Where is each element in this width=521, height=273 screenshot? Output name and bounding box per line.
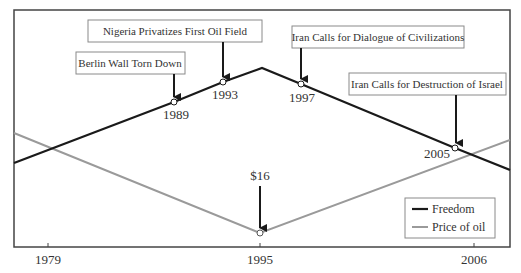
chart-svg: 1979 1995 2006 Nigeria Privatizes First … (0, 0, 521, 273)
x-tick-label-1979: 1979 (35, 252, 61, 267)
price-label: $16 (250, 168, 270, 183)
year-label-1989: 1989 (163, 107, 189, 122)
point-1997 (298, 81, 304, 87)
point-1989 (171, 99, 177, 105)
point-1993 (220, 79, 226, 85)
annotation-text-nigeria: Nigeria Privatizes First Oil Field (103, 25, 248, 37)
x-tick-label-1995: 1995 (247, 252, 273, 267)
annotation-text-iran-dialogue: Iran Calls for Dialogue of Civilizations (292, 31, 465, 43)
year-label-1993: 1993 (212, 87, 238, 102)
legend-oil-label: Price of oil (432, 220, 486, 234)
year-label-1997: 1997 (289, 90, 316, 105)
legend-freedom-label: Freedom (432, 202, 475, 216)
annotation-text-iran-destruction: Iran Calls for Destruction of Israel (351, 78, 503, 90)
point-2005 (452, 145, 458, 151)
year-label-2005: 2005 (424, 146, 450, 161)
point-oil-1995 (257, 230, 263, 236)
annotation-text-berlin: Berlin Wall Torn Down (78, 57, 182, 69)
x-tick-label-2006: 2006 (461, 252, 488, 267)
